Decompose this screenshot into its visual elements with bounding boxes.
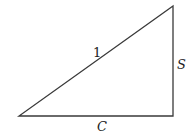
hypotenuse-label: 1 bbox=[93, 45, 101, 60]
right-triangle-diagram: 1 S C bbox=[0, 0, 195, 134]
vertical-side-label: S bbox=[177, 57, 186, 72]
triangle-shape bbox=[19, 6, 173, 116]
horizontal-side-label: C bbox=[97, 119, 107, 134]
